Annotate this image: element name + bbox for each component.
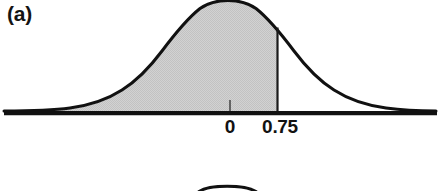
next-panel-curve-partial bbox=[199, 186, 256, 191]
shaded-area-region bbox=[4, 2, 436, 114]
normal-distribution-figure: (a) 0 0.75 bbox=[0, 0, 440, 191]
tick-label-075: 0.75 bbox=[262, 116, 299, 137]
normal-curve-chart: 0 0.75 bbox=[0, 0, 440, 191]
tick-label-zero: 0 bbox=[225, 116, 235, 137]
